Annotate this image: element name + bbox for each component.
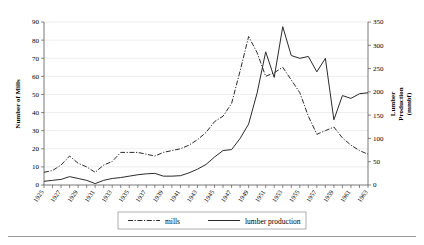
gridlines: [44, 22, 368, 167]
x-axis-tick-label: 1933: [100, 189, 113, 204]
x-axis-tick-label: 1953: [270, 189, 283, 204]
x-axis-tick-label: 1937: [134, 188, 148, 203]
x-axis-tick-label: 1935: [117, 189, 130, 204]
y2-axis-tick-label: 250: [373, 65, 384, 73]
y-axis-tick-label: 90: [32, 18, 40, 26]
y-axis-tick-label: 60: [32, 73, 40, 81]
y-axis-ticks: 0102030405060708090: [32, 18, 44, 189]
x-axis-tick-label: 1961: [339, 189, 352, 204]
y2-axis-tick-label: 0: [373, 181, 377, 189]
y2-axis-ticks: 050100150200250300350: [368, 18, 384, 189]
y2-axis-tick-label: 50: [373, 158, 381, 166]
data-series: [44, 27, 368, 184]
x-axis-tick-label: 1957: [304, 188, 318, 203]
y-axis-tick-label: 30: [32, 127, 40, 135]
x-axis-tick-label: 1943: [185, 189, 198, 204]
footer-divider: [8, 236, 416, 237]
y-axis-tick-label: 80: [32, 37, 40, 45]
x-axis-tick-label: 1963: [356, 189, 369, 204]
y-axis-tick-label: 70: [32, 55, 40, 63]
legend-label-lumber-production: lumber production: [245, 217, 301, 226]
x-axis-tick-label: 1947: [219, 188, 233, 203]
y2-axis-title-line3: (mmbf): [405, 92, 413, 115]
x-axis-tick-label: 1941: [168, 189, 181, 204]
x-axis-tick-label: 1945: [202, 189, 215, 204]
chart-legend: mills lumber production: [118, 212, 306, 229]
y-axis-tick-label: 20: [32, 145, 40, 153]
legend-label-mills: mills: [165, 217, 180, 226]
y-axis-tick-label: 50: [32, 91, 40, 99]
y-axis-tick-label: 40: [32, 109, 40, 117]
x-axis-ticks: 1925192719291931193319351937193919411943…: [32, 185, 369, 203]
y-axis-title: Number of Mills: [14, 79, 22, 129]
x-axis-tick-label: 1949: [236, 189, 249, 204]
y2-axis-tick-label: 300: [373, 42, 384, 50]
y2-axis-tick-label: 350: [373, 18, 384, 26]
line-chart: 0102030405060708090 05010015020025030035…: [0, 0, 424, 245]
y2-axis-tick-label: 200: [373, 88, 384, 96]
y2-axis-tick-label: 150: [373, 112, 384, 120]
y2-axis-title-line1: Lumber: [389, 92, 397, 117]
y-axis-tick-label: 10: [32, 163, 40, 171]
x-axis-tick-label: 1939: [151, 189, 164, 204]
series-line-mills: [44, 36, 368, 172]
y-axis-tick-label: 0: [36, 181, 40, 189]
x-axis-tick-label: 1955: [287, 189, 300, 204]
x-axis-tick-label: 1925: [32, 189, 45, 204]
x-axis-tick-label: 1931: [83, 189, 96, 204]
y2-axis-tick-label: 100: [373, 135, 384, 143]
axes: [44, 22, 368, 185]
x-axis-tick-label: 1929: [66, 189, 79, 204]
x-axis-tick-label: 1959: [322, 189, 335, 204]
x-axis-tick-label: 1927: [49, 188, 63, 203]
series-line-lumber-production: [44, 27, 368, 184]
y2-axis-title-line2: Production: [397, 87, 405, 120]
x-axis-tick-label: 1951: [253, 189, 266, 204]
chart-figure: 0102030405060708090 05010015020025030035…: [0, 0, 424, 245]
